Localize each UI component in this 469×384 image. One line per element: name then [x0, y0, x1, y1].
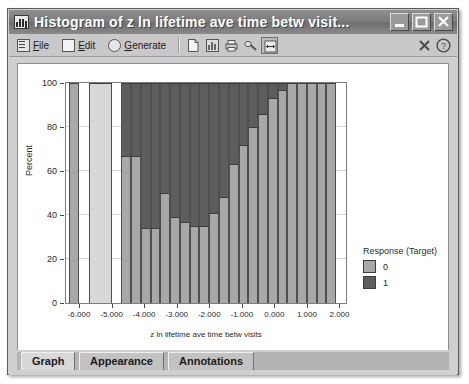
tab-strip: GraphAppearanceAnnotations — [17, 352, 449, 370]
histogram-bar[interactable] — [131, 83, 141, 303]
histogram-bar[interactable] — [317, 83, 327, 303]
histogram-bar[interactable] — [121, 83, 131, 303]
histogram-bar[interactable] — [219, 83, 229, 303]
y-axis-tick-label: 60 — [31, 166, 57, 176]
menu-file[interactable]: File — [12, 36, 54, 54]
bar-segment-response-0 — [278, 90, 288, 303]
histogram-bars — [66, 83, 346, 303]
edit-menu-icon — [62, 39, 75, 52]
y-axis-tick — [60, 215, 64, 216]
y-axis-tick-label: 40 — [31, 210, 57, 220]
bar-segment-response-0 — [141, 228, 151, 303]
help-icon[interactable]: ? — [436, 38, 451, 53]
histogram-bar[interactable] — [268, 83, 278, 303]
histogram-bar[interactable] — [199, 83, 209, 303]
bar-segment-response-0 — [180, 222, 190, 303]
new-document-button[interactable] — [185, 37, 202, 54]
bar-segment-response-1 — [219, 83, 229, 197]
bar-segment-response-0 — [170, 217, 180, 303]
y-axis-tick-label: 20 — [31, 254, 57, 264]
legend-swatch — [363, 260, 376, 273]
bar-segment-response-0 — [239, 145, 249, 303]
histogram-bar[interactable] — [287, 83, 297, 303]
minimize-button[interactable] — [390, 13, 409, 31]
legend-title: Response (Target) — [363, 246, 449, 256]
close-view-icon[interactable] — [417, 38, 432, 53]
histogram-bar[interactable] — [258, 83, 268, 303]
bar-segment-response-1 — [199, 83, 209, 226]
edit-properties-button[interactable] — [242, 37, 259, 54]
close-button[interactable] — [434, 13, 453, 31]
legend-entry[interactable]: 1 — [363, 276, 449, 289]
bar-segment-response-0 — [229, 164, 239, 303]
y-axis-tick — [60, 83, 64, 84]
print-button[interactable] — [223, 37, 240, 54]
bar-segment-response-0 — [121, 156, 131, 303]
export-chart-button[interactable] — [204, 37, 221, 54]
bar-segment-response-1 — [180, 83, 190, 222]
tab-graph[interactable]: Graph — [21, 352, 75, 370]
histogram-bar[interactable] — [69, 83, 79, 303]
histogram-bar[interactable] — [160, 83, 170, 303]
x-axis-tick-label: 2.000 — [319, 310, 359, 319]
bar-segment-response-1 — [209, 83, 219, 213]
histogram-bar[interactable] — [297, 83, 307, 303]
histogram-bar[interactable] — [326, 83, 336, 303]
histogram-bar[interactable] — [190, 83, 200, 303]
bar-segment-response-0 — [160, 193, 170, 303]
bar-segment-response-1 — [278, 83, 288, 90]
x-axis-tick — [177, 304, 178, 308]
menu-edit[interactable]: Edit — [57, 36, 100, 54]
bar-segment-response-0 — [297, 83, 307, 303]
y-axis-tick-label: 80 — [31, 122, 57, 132]
histogram-bar[interactable] — [239, 83, 249, 303]
histogram-bar[interactable] — [307, 83, 317, 303]
menu-edit-label: Edit — [78, 40, 95, 51]
menu-generate-label: Generate — [124, 40, 166, 51]
legend-entry[interactable]: 0 — [363, 260, 449, 273]
histogram-bar[interactable] — [89, 83, 112, 303]
tab-annotations[interactable]: Annotations — [168, 352, 254, 370]
application-window: Histogram of z ln lifetime ave time betw… — [0, 0, 469, 384]
window-title: Histogram of z ln lifetime ave time betw… — [34, 14, 390, 30]
generate-menu-icon — [108, 39, 121, 52]
legend-entries: 01 — [363, 260, 449, 289]
menu-generate[interactable]: Generate — [103, 36, 171, 54]
histogram-bar[interactable] — [248, 83, 258, 303]
fit-width-button[interactable] — [261, 37, 278, 54]
histogram-bar[interactable] — [151, 83, 161, 303]
histogram-bar[interactable] — [141, 83, 151, 303]
file-menu-icon — [17, 39, 30, 52]
y-axis-tick — [60, 259, 64, 260]
x-axis-title: z ln lifetime ave time betw visits — [65, 330, 347, 339]
histogram-bar[interactable] — [180, 83, 190, 303]
bar-segment-response-1 — [190, 83, 200, 226]
x-axis-tick — [339, 304, 340, 308]
histogram-bar[interactable] — [209, 83, 219, 303]
bar-segment-response-1 — [131, 83, 141, 156]
legend-label: 0 — [383, 262, 388, 272]
bar-segment-response-0 — [317, 83, 327, 303]
tab-appearance[interactable]: Appearance — [79, 352, 164, 370]
bar-segment-response-0 — [89, 83, 112, 303]
y-axis-tick — [60, 127, 64, 128]
histogram-bar[interactable] — [229, 83, 239, 303]
bar-segment-response-0 — [69, 83, 79, 303]
toolbar-right-group: ? — [417, 38, 451, 53]
legend-label: 1 — [383, 278, 388, 288]
legend: Response (Target) 01 — [363, 246, 449, 292]
bar-segment-response-0 — [131, 156, 141, 303]
bar-segment-response-1 — [160, 83, 170, 193]
bar-segment-response-1 — [239, 83, 249, 145]
histogram-bar[interactable] — [278, 83, 288, 303]
x-axis-tick — [144, 304, 145, 308]
bar-segment-response-0 — [190, 226, 200, 303]
title-bar: Histogram of z ln lifetime ave time betw… — [9, 10, 457, 34]
menu-file-label: File — [33, 40, 49, 51]
maximize-button[interactable] — [412, 13, 431, 31]
x-axis-tick — [307, 304, 308, 308]
bar-segment-response-1 — [268, 83, 278, 98]
histogram-bar[interactable] — [170, 83, 180, 303]
bar-segment-response-0 — [287, 83, 297, 303]
toolbar-separator — [178, 37, 180, 53]
